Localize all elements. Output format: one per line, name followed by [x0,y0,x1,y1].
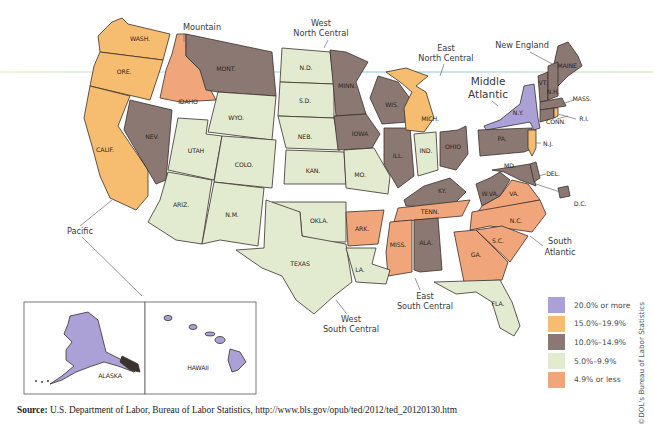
leader-pacific-up [80,200,112,226]
source-note: Source: U.S. Department of Labor, Bureau… [17,405,457,415]
legend-item: 10.0%–14.9% [548,333,638,352]
label-ky: KY. [438,187,446,194]
label-neb: NEB. [298,133,312,140]
label-ore: ORE. [117,68,132,75]
label-texas: TEXAS [289,260,310,267]
legend-swatch-0-4 [548,372,565,388]
leader-dc [536,184,560,192]
legend-label: 4.9% or less [574,375,621,384]
legend-item: 4.9% or less [548,370,638,389]
label-wis: WIS. [385,101,399,108]
label-fla: FLA. [492,300,505,307]
state-nj[interactable] [528,130,536,156]
region-label-wnc-1: West [311,18,332,28]
leader-enc [440,64,444,76]
state-vt[interactable] [538,72,548,102]
leader-wnc [324,40,328,48]
label-ark: ARK. [355,225,369,232]
region-label-enc-2: North Central [418,53,473,63]
label-vt: VT. [539,79,548,86]
leader-pacific-down [82,237,142,296]
state-ind[interactable] [414,132,438,176]
label-nd: N.D. [300,64,313,71]
leader-esc [415,278,420,290]
label-ny: N.Y. [513,109,524,116]
aleutian-island [47,380,49,382]
leader-wsc [336,300,347,314]
label-tenn: TENN. [420,208,440,215]
label-minn: MINN. [338,82,356,89]
label-nm: N.M. [225,211,239,218]
label-miss: MISS. [390,241,407,248]
label-mich: MICH. [421,115,439,122]
label-okla: OKLA. [310,217,328,224]
label-hawaii: HAWAII [187,364,209,371]
state-mo[interactable] [344,148,390,194]
hawaii-maui [215,337,225,344]
label-idaho: IDAHO [178,98,198,105]
legend-swatch-10-14 [548,334,565,350]
legend-label: 10.0%–14.9% [574,338,626,347]
region-label-wsc-1: West [341,314,362,324]
region-label-new-england: New England [495,40,549,50]
image-credit: ©DOL's Bureau of Labor Statistics [637,302,646,425]
state-pa[interactable] [478,128,534,156]
region-label-esc-1: East [416,291,434,301]
source-prefix: Source: [17,405,48,415]
legend-label: 15.0%–19.9% [574,319,626,328]
legend-item: 15.0%–19.9% [548,315,638,334]
state-miss[interactable] [386,220,412,276]
label-ariz: ARIZ. [173,201,189,208]
label-kan: KAN. [306,167,321,174]
label-nh: N.H. [547,88,560,95]
label-la: LA. [355,266,365,273]
state-la[interactable] [346,248,390,284]
hawaii-molokai [205,332,215,336]
label-md: MD. [504,162,516,169]
state-ri[interactable] [554,108,558,118]
region-label-enc-1: East [437,43,455,53]
inset-alaska-hawaii: ALASKA HAWAII [24,302,256,394]
region-label-middle-atlantic-2: Atlantic [468,88,508,100]
label-pa: PA. [497,135,506,142]
aleutian-island [35,380,37,382]
label-wyo: WYO. [228,114,244,121]
label-del: DEL. [546,170,560,177]
legend-swatch-20-plus [548,297,565,313]
legend-item: 5.0%–9.9% [548,352,638,371]
label-mass: MASS. [573,95,592,102]
label-ri: R.I. [579,115,589,122]
label-nev: NEV. [145,133,159,140]
label-colo: COLO. [235,161,254,168]
region-label-wnc-2: North Central [293,28,348,38]
region-label-south-atlantic-2: Atlantic [544,247,575,257]
leader-south-atlantic [530,236,543,246]
inset-hawaii-box [145,302,256,394]
label-nj: N.J. [543,140,553,148]
legend-label: 20.0% or more [574,301,630,310]
hawaii-oahu [189,325,197,330]
label-ohio: OHIO [445,143,461,150]
region-east-south-central [386,178,470,276]
legend-item: 20.0% or more [548,296,638,315]
label-utah: UTAH [188,147,205,154]
label-alaska: ALASKA [98,372,122,379]
region-label-middle-atlantic-1: Middle [471,75,506,87]
label-wash: WASH. [130,35,150,42]
leader-middle-atlantic [492,101,498,106]
legend-swatch-5-9 [548,353,565,369]
aleutian-island [41,381,43,383]
region-label-wsc-2: South Central [323,324,379,334]
region-label-mountain: Mountain [183,22,221,32]
label-mo: MO. [354,171,366,178]
label-ind: IND. [420,147,433,154]
label-mont: MONT. [216,65,235,72]
label-sc: S.C. [492,237,504,244]
legend-swatch-15-19 [548,316,565,332]
label-dc: D.C. [574,200,587,207]
label-ill: ILL. [393,152,403,159]
region-label-south-atlantic-1: South [548,236,572,246]
label-wva: W.VA. [482,190,499,197]
label-ga: GA. [471,251,482,258]
label-va: VA. [509,190,519,197]
